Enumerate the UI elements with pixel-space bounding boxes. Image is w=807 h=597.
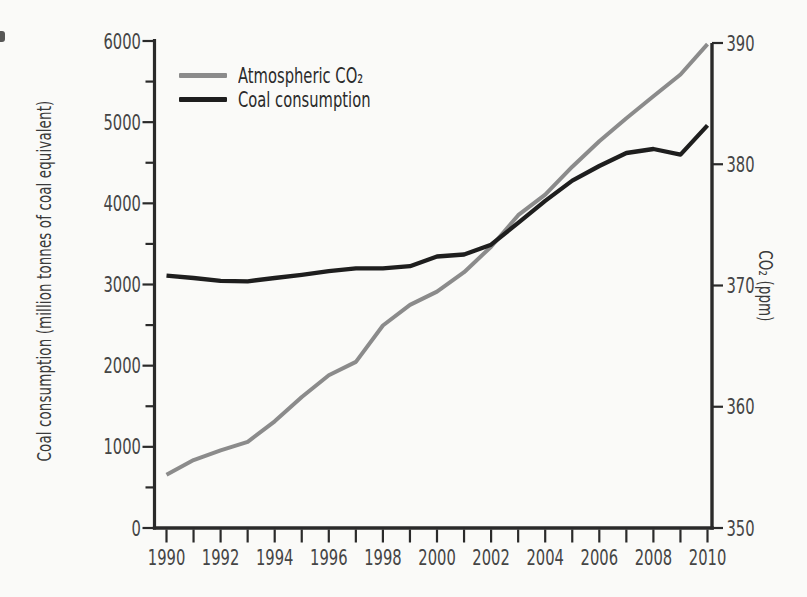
left-axis-tick-label: 2000 (103, 353, 141, 378)
legend-label-atmospheric-co2: Atmospheric CO₂ (238, 63, 363, 88)
right-axis-tick-label: 370 (727, 273, 755, 298)
coal-line-series (167, 125, 708, 281)
left-axis-tick-label: 1000 (103, 434, 141, 459)
left-axis-tick-label: 4000 (103, 191, 141, 216)
x-axis-tick-label: 1996 (310, 545, 348, 570)
x-axis-tick-label: 2002 (472, 545, 510, 570)
x-axis-tick-label: 1998 (364, 545, 402, 570)
right-axis-tick-label: 360 (727, 394, 755, 419)
left-axis-tick-label: 3000 (103, 272, 141, 297)
co2-line-swatch (179, 73, 227, 78)
x-axis-tick-label: 2010 (689, 545, 727, 570)
x-axis-tick-label: 2006 (581, 545, 619, 570)
right-axis-tick-label: 350 (727, 516, 755, 541)
right-axis-title: CO₂ (ppm) (754, 250, 778, 321)
x-axis-tick-label: 1992 (202, 545, 240, 570)
legend-item-atmospheric-co2: Atmospheric CO₂ (179, 63, 435, 88)
left-axis-title: Coal consumption (million tonnes of coal… (32, 101, 56, 462)
right-axis-tick-label: 380 (727, 152, 755, 177)
right-axis-tick-label: 390 (727, 31, 755, 56)
legend-label-coal-consumption: Coal consumption (238, 87, 371, 112)
x-axis-tick-label: 1990 (148, 545, 186, 570)
chart-legend: Atmospheric CO₂ Coal consumption (179, 63, 435, 112)
legend-item-coal-consumption: Coal consumption (179, 88, 435, 113)
x-axis-tick-label: 2008 (635, 545, 673, 570)
coal-line-swatch (179, 97, 227, 102)
x-axis-tick-label: 2004 (526, 545, 564, 570)
x-axis-tick-label: 2000 (418, 545, 456, 570)
x-axis-tick-label: 1994 (256, 545, 294, 570)
left-axis-tick-label: 5000 (103, 110, 141, 135)
chart-page: 0100020003000400050006000199019921994199… (0, 0, 807, 597)
left-axis-tick-label: 0 (132, 516, 141, 541)
left-axis-tick-label: 6000 (103, 29, 141, 54)
